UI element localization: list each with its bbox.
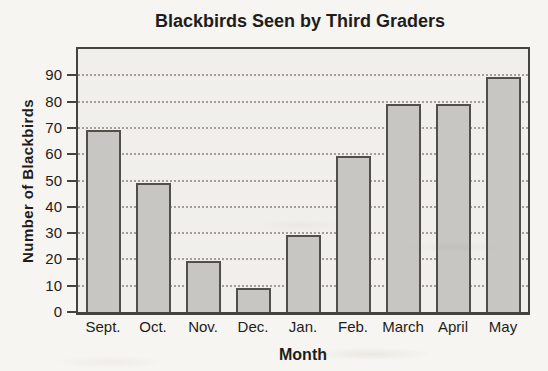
y-tick-mark-70	[67, 127, 76, 129]
y-tick-label-20: 20	[22, 251, 62, 266]
bar-march	[386, 104, 421, 312]
y-tick-mark-30	[67, 232, 76, 234]
x-axis-labels: Sept.Oct.Nov.Dec.Jan.Feb.MarchAprilMay	[78, 318, 528, 335]
x-tick-label-april: April	[428, 318, 478, 335]
y-tick-mark-50	[67, 180, 76, 182]
x-tick-label-may: May	[478, 318, 528, 335]
x-tick-label-feb: Feb.	[328, 318, 378, 335]
bar-slot-nov	[178, 49, 228, 312]
bar-slot-march	[378, 49, 428, 312]
plot-area	[76, 47, 530, 315]
bar-may	[486, 77, 521, 312]
y-axis-ticks: 0102030405060708090	[0, 49, 76, 312]
bar-slot-jan	[278, 49, 328, 312]
bar-feb	[336, 156, 371, 312]
y-tick-mark-40	[67, 206, 76, 208]
bar-slot-feb	[328, 49, 378, 312]
y-tick-mark-80	[67, 101, 76, 103]
bar-slot-april	[428, 49, 478, 312]
bar-april	[436, 104, 471, 312]
bar-chart-figure: Blackbirds Seen by Third Graders Number …	[0, 0, 548, 371]
bar-slot-may	[478, 49, 528, 312]
x-tick-label-jan: Jan.	[278, 318, 328, 335]
y-tick-label-30: 30	[22, 225, 62, 240]
bar-slot-sept	[78, 49, 128, 312]
x-axis-title: Month	[78, 346, 528, 364]
bar-dec	[236, 288, 271, 312]
y-tick-label-0: 0	[22, 304, 62, 319]
bar-slot-dec	[228, 49, 278, 312]
x-tick-label-march: March	[378, 318, 428, 335]
bar-slot-oct	[128, 49, 178, 312]
y-tick-mark-10	[67, 285, 76, 287]
x-tick-label-nov: Nov.	[178, 318, 228, 335]
bars-layer	[78, 49, 528, 312]
bar-jan	[286, 235, 321, 312]
y-tick-mark-0	[67, 311, 76, 313]
y-tick-mark-20	[67, 258, 76, 260]
x-tick-label-oct: Oct.	[128, 318, 178, 335]
y-tick-label-80: 80	[22, 94, 62, 109]
y-tick-label-40: 40	[22, 199, 62, 214]
y-tick-label-90: 90	[22, 67, 62, 82]
bar-nov	[186, 261, 221, 312]
x-tick-label-sept: Sept.	[78, 318, 128, 335]
bar-oct	[136, 183, 171, 313]
y-tick-label-70: 70	[22, 120, 62, 135]
y-tick-label-50: 50	[22, 173, 62, 188]
y-tick-mark-60	[67, 153, 76, 155]
bar-sept	[86, 130, 121, 312]
y-tick-mark-90	[67, 74, 76, 76]
x-tick-label-dec: Dec.	[228, 318, 278, 335]
y-tick-label-60: 60	[22, 146, 62, 161]
chart-title: Blackbirds Seen by Third Graders	[70, 11, 530, 32]
y-tick-label-10: 10	[22, 278, 62, 293]
